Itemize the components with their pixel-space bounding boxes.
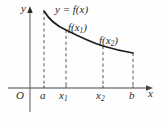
function-curve: [44, 11, 133, 53]
tick-label-x1-subscript: 1: [64, 94, 68, 103]
fx1-prefix: f(x: [68, 21, 80, 33]
fx2-suffix: ): [114, 34, 118, 46]
ordinate-lines: [44, 11, 133, 87]
tick-label-a: a: [40, 90, 46, 101]
curve-label: y = f(x): [55, 4, 88, 15]
tick-label-x2: x2: [96, 90, 105, 102]
tick-label-x2-subscript: 2: [101, 94, 105, 103]
y-axis: [27, 6, 32, 112]
fx1-suffix: ): [83, 21, 87, 33]
fx2-prefix: f(x: [99, 34, 111, 46]
origin-label: O: [16, 90, 24, 101]
y-axis-label: y: [21, 3, 26, 14]
graph-canvas: [0, 0, 162, 122]
fx2-label: f(x2): [99, 35, 118, 47]
y-axis-arrow-icon: [27, 6, 32, 13]
x-axis-label: x: [148, 88, 153, 99]
tick-label-x1: x1: [59, 90, 68, 102]
function-graph-figure: y = f(x) f(x1) f(x2) y x O a x1 x2 b: [0, 0, 162, 122]
tick-label-b: b: [129, 90, 135, 101]
fx1-label: f(x1): [68, 22, 87, 34]
